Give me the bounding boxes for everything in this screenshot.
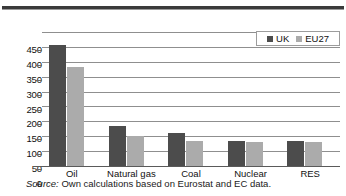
bar-uk-oil[interactable] — [49, 45, 66, 166]
bar-chart: 050100150200250300350400450 OilNatural g… — [0, 14, 346, 166]
x-axis-label-res: RES — [280, 168, 340, 179]
legend-entry-eu27[interactable]: EU27 — [296, 34, 329, 44]
bar-eu27-oil[interactable] — [67, 67, 84, 166]
legend-swatch-uk — [267, 36, 273, 42]
legend-label-eu27: EU27 — [305, 34, 329, 44]
source-note: Source: Own calculations based on Eurost… — [26, 178, 271, 190]
legend-entry-uk[interactable]: UK — [267, 34, 289, 44]
bar-uk-natural-gas[interactable] — [109, 126, 126, 166]
bar-group — [42, 32, 102, 166]
bar-groups — [42, 32, 340, 166]
figure-container: 050100150200250300350400450 OilNatural g… — [0, 0, 346, 196]
source-note-text: Own calculations based on Eurostat and E… — [59, 178, 271, 189]
bar-group — [221, 32, 281, 166]
bar-uk-coal[interactable] — [168, 133, 185, 166]
bar-eu27-res[interactable] — [305, 142, 322, 166]
bar-eu27-coal[interactable] — [186, 141, 203, 166]
y-axis: 050100150200250300350400450 — [0, 32, 42, 166]
bar-eu27-nuclear[interactable] — [246, 142, 263, 166]
bar-uk-res[interactable] — [287, 141, 304, 166]
plot-area — [42, 32, 340, 166]
bar-eu27-natural-gas[interactable] — [127, 136, 144, 166]
bar-group — [280, 32, 340, 166]
legend-swatch-eu27 — [296, 36, 302, 42]
chart-legend: UKEU27 — [256, 31, 340, 46]
bar-uk-nuclear[interactable] — [228, 141, 245, 166]
bar-group — [102, 32, 162, 166]
figure-top-rule-hairline — [2, 9, 344, 10]
legend-label-uk: UK — [276, 34, 289, 44]
source-note-label: Source: — [26, 178, 59, 189]
bar-group — [161, 32, 221, 166]
